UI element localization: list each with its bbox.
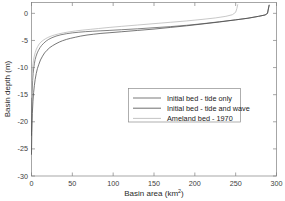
x-tick-label: 100: [107, 179, 119, 188]
x-tick-label: 250: [230, 179, 242, 188]
y-axis-title: Basin depth (m): [3, 60, 12, 117]
series-line-2: [32, 5, 238, 98]
x-tick-label: 50: [68, 179, 76, 188]
y-tick-label: -10: [18, 63, 28, 72]
x-axis-title: Basin area (km2): [124, 188, 184, 198]
x-tick-label: 300: [271, 179, 283, 188]
legend-label-0[interactable]: Initial bed - tide only: [167, 94, 232, 103]
data-series-group: [32, 5, 270, 155]
legend[interactable]: Initial bed - tide onlyInitial bed - tid…: [129, 89, 250, 124]
y-tick-label: -15: [18, 90, 28, 99]
y-tick-label: -20: [18, 117, 28, 126]
hypsometry-chart: 050100150200250300 0-5-10-15-20-25-30 Ba…: [0, 0, 285, 201]
x-axis-tick-labels: 050100150200250300: [30, 179, 283, 188]
y-tick-label: -5: [22, 36, 28, 45]
legend-label-2[interactable]: Ameland bed - 1970: [167, 114, 233, 123]
series-line-1: [32, 5, 270, 154]
figure-container: 050100150200250300 0-5-10-15-20-25-30 Ba…: [0, 0, 285, 201]
y-tick-label: 0: [24, 9, 28, 18]
y-axis-tick-labels: 0-5-10-15-20-25-30: [18, 9, 28, 181]
x-tick-label: 200: [189, 179, 201, 188]
y-tick-label: -30: [18, 172, 28, 181]
y-tick-label: -25: [18, 144, 28, 153]
x-tick-label: 150: [148, 179, 160, 188]
legend-label-1[interactable]: Initial bed - tide and wave: [167, 104, 250, 113]
x-tick-label: 0: [30, 179, 34, 188]
